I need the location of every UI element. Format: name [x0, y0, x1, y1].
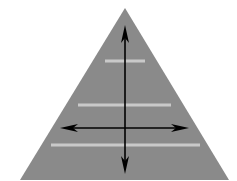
pyramid-canvas [0, 0, 237, 181]
pyramid-diagram [0, 0, 237, 181]
